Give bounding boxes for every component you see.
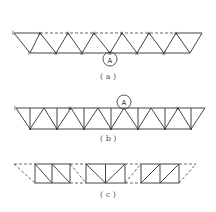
svg-text:x: x xyxy=(162,49,166,56)
svg-text:x: x xyxy=(147,29,151,36)
svg-text:x: x xyxy=(38,29,42,36)
caption-c: ( c ) xyxy=(100,190,116,199)
panel-c-truss xyxy=(14,164,196,183)
detail-b-label: A xyxy=(122,99,127,107)
svg-text:x: x xyxy=(92,29,96,36)
svg-text:x: x xyxy=(120,29,124,36)
svg-text:I: I xyxy=(14,104,16,111)
panel-a-truss: I x x x x x x I x x x x x A xyxy=(12,29,202,66)
detail-a-label: A xyxy=(108,57,113,65)
svg-text:x: x xyxy=(176,104,180,111)
svg-text:x: x xyxy=(80,49,84,56)
svg-text:I: I xyxy=(12,29,14,36)
panel-b-truss: I x x A xyxy=(14,95,205,130)
svg-text:x: x xyxy=(174,29,178,36)
truss-figure: I x x x x x x I x x x x x A ( a ) I x x xyxy=(0,0,216,212)
caption-b: ( b ) xyxy=(100,134,116,143)
svg-text:x: x xyxy=(135,49,139,56)
caption-a: ( a ) xyxy=(100,72,116,81)
svg-text:x: x xyxy=(68,104,72,111)
svg-text:I: I xyxy=(28,49,30,56)
svg-text:x: x xyxy=(66,29,70,36)
svg-text:x: x xyxy=(54,49,58,56)
